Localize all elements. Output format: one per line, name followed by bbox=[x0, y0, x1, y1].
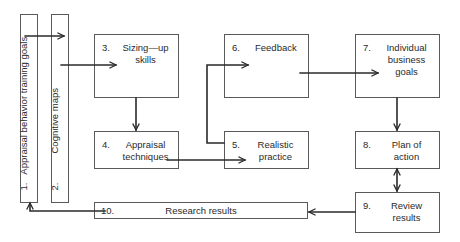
node-4-appraisal-techniques: 4. Appraisal techniques bbox=[94, 131, 179, 169]
node-6-label: Feedback bbox=[255, 42, 304, 54]
node-7-number: 7. bbox=[363, 42, 371, 54]
node-5-number: 5. bbox=[232, 139, 240, 151]
node-4-number: 4. bbox=[102, 139, 110, 151]
node-3-sizing-up-skills: 3. Sizing—up skills bbox=[94, 34, 179, 98]
node-3-label: Sizing—up skills bbox=[117, 42, 174, 66]
node-2-label: Cognitive maps bbox=[49, 88, 60, 153]
node-7-individual-business-goals: 7. Individual business goals bbox=[355, 34, 440, 98]
node-5-label: Realistic practice bbox=[247, 139, 304, 163]
node-8-plan-of-action: 8. Plan of action bbox=[355, 131, 440, 169]
node-3-number: 3. bbox=[102, 42, 110, 54]
node-8-number: 8. bbox=[363, 139, 371, 151]
node-1-label: Appraisal behavior training goals bbox=[18, 37, 29, 175]
node-10-label: Research results bbox=[95, 204, 307, 218]
node-5-realistic-practice: 5. Realistic practice bbox=[224, 131, 309, 169]
arrow-9-to-10 bbox=[309, 209, 355, 215]
node-7-label: Individual business goals bbox=[378, 42, 435, 78]
node-9-review-results: 9. Review results bbox=[355, 192, 440, 233]
node-10-research-results: 10. Research results bbox=[94, 202, 308, 219]
node-2-cognitive-maps: 2. Cognitive maps bbox=[51, 14, 69, 203]
node-1-appraisal-behavior-training-goals: 1. Appraisal behavior training goals bbox=[20, 14, 38, 203]
node-8-label: Plan of action bbox=[378, 139, 435, 163]
arrow-7-to-8 bbox=[394, 98, 400, 130]
node-4-label: Appraisal techniques bbox=[117, 139, 174, 163]
node-2-number: 2. bbox=[49, 183, 60, 191]
node-6-number: 6. bbox=[232, 42, 240, 54]
node-9-label: Review results bbox=[378, 200, 435, 224]
node-9-number: 9. bbox=[363, 200, 371, 212]
node-6-feedback: 6. Feedback bbox=[224, 34, 309, 98]
arrow-8-to-9-bidirectional bbox=[394, 169, 400, 191]
node-1-number: 1. bbox=[18, 183, 29, 191]
arrow-3-to-4 bbox=[133, 98, 139, 130]
